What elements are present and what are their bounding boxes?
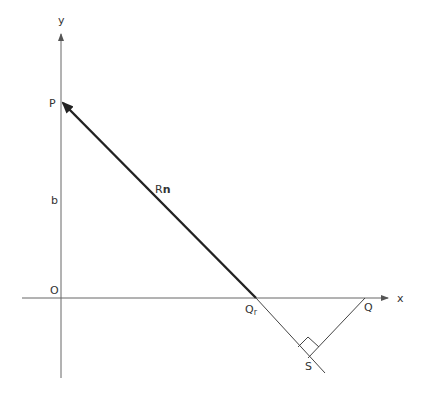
vector-rn xyxy=(63,103,256,298)
origin-label: O xyxy=(50,284,59,297)
y-axis-label: y xyxy=(58,14,65,27)
diagram-canvas: y x O P b Rn Qr Q S xyxy=(0,0,426,397)
line-qr-s xyxy=(256,298,325,373)
point-s-label: S xyxy=(305,360,312,373)
vector-rn-label: Rn xyxy=(155,183,171,196)
right-angle-marker xyxy=(298,337,319,347)
line-q-s xyxy=(308,298,365,358)
point-q-label: Q xyxy=(364,301,373,314)
x-axis-label: x xyxy=(397,292,404,305)
point-qr-label: Qr xyxy=(245,303,258,317)
segment-b-label: b xyxy=(51,194,58,207)
point-p-label: P xyxy=(49,97,56,110)
